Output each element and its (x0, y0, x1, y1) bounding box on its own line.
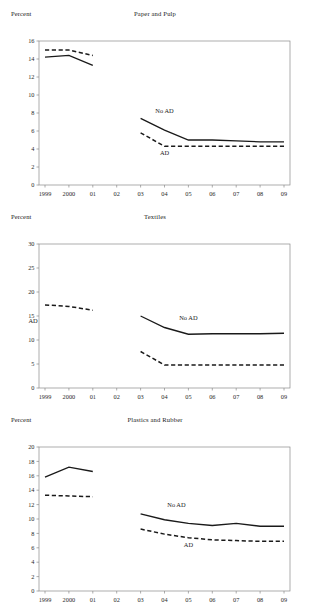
plot-frame (39, 244, 290, 388)
y-tick-label: 4 (31, 145, 35, 152)
y-tick-label: 20 (28, 443, 34, 450)
series-line-no-ad (45, 55, 93, 65)
x-tick-label: 01 (90, 596, 96, 603)
y-tick-label: 8 (31, 109, 34, 116)
y-tick-label: 14 (28, 55, 35, 62)
chart-panel-plastics-and-rubber: Percent Plastics and Rubber 024681012141… (0, 406, 310, 609)
y-tick-label: 10 (28, 91, 34, 98)
x-tick-label: 01 (90, 393, 96, 400)
series-label-no-ad: No AD (179, 314, 198, 321)
series-line-ad (45, 305, 93, 310)
x-tick-label: 07 (233, 190, 239, 197)
y-tick-label: 10 (28, 515, 34, 522)
x-tick-label: 05 (185, 393, 191, 400)
y-tick-label: 14 (28, 486, 35, 493)
x-tick-label: 1999 (39, 393, 52, 400)
x-tick-label: 06 (209, 393, 215, 400)
x-tick-label: 2000 (63, 393, 76, 400)
x-tick-label: 07 (233, 393, 239, 400)
x-tick-label: 05 (185, 596, 191, 603)
x-tick-label: 08 (257, 393, 263, 400)
line-chart-plastics-and-rubber: 0246810121416182019992000010203040506070… (0, 406, 310, 609)
x-tick-label: 09 (281, 190, 287, 197)
x-tick-label: 09 (281, 596, 287, 603)
chart-panel-textiles: Percent Textiles 05101520253019992000010… (0, 203, 310, 406)
series-line-ad (141, 529, 284, 541)
y-tick-label: 0 (31, 384, 34, 391)
series-label-ad: AD (28, 317, 38, 324)
x-tick-label: 08 (257, 596, 263, 603)
x-tick-label: 08 (257, 190, 263, 197)
chart-panel-paper-and-pulp: Percent Paper and Pulp 02468101214161999… (0, 0, 310, 203)
y-tick-label: 25 (28, 264, 34, 271)
line-chart-textiles: 05101520253019992000010203040506070809No… (0, 203, 310, 406)
y-tick-label: 12 (28, 501, 34, 508)
y-tick-label: 4 (31, 558, 35, 565)
x-tick-label: 06 (209, 596, 215, 603)
series-line-ad (45, 495, 93, 496)
x-tick-label: 03 (137, 596, 143, 603)
y-tick-label: 8 (31, 530, 34, 537)
figure-page: Percent Paper and Pulp 02468101214161999… (0, 0, 310, 609)
x-tick-label: 04 (161, 596, 168, 603)
x-tick-label: 05 (185, 190, 191, 197)
x-tick-label: 1999 (39, 190, 52, 197)
x-tick-label: 09 (281, 393, 287, 400)
y-tick-label: 16 (28, 472, 34, 479)
plot-area-plastics-and-rubber: 0246810121416182019992000010203040506070… (0, 406, 310, 609)
y-tick-label: 10 (28, 336, 34, 343)
series-line-ad (45, 50, 93, 55)
x-tick-label: 1999 (39, 596, 52, 603)
series-label-ad: AD (184, 541, 194, 548)
x-tick-label: 06 (209, 190, 215, 197)
x-tick-label: 03 (137, 190, 143, 197)
y-tick-label: 5 (31, 360, 34, 367)
x-tick-label: 01 (90, 190, 96, 197)
y-tick-label: 20 (28, 288, 34, 295)
y-tick-label: 6 (31, 127, 34, 134)
line-chart-paper-and-pulp: 024681012141619992000010203040506070809N… (0, 0, 310, 203)
y-tick-label: 30 (28, 240, 34, 247)
series-line-ad (141, 352, 284, 365)
x-tick-label: 03 (137, 393, 143, 400)
x-tick-label: 02 (114, 190, 120, 197)
series-line-no-ad (141, 118, 284, 141)
plot-area-textiles: 05101520253019992000010203040506070809No… (0, 203, 310, 406)
x-tick-label: 04 (161, 190, 168, 197)
series-line-no-ad (141, 316, 284, 334)
series-line-no-ad (141, 514, 284, 526)
y-tick-label: 0 (31, 587, 34, 594)
series-label-ad: AD (160, 149, 170, 156)
y-tick-label: 6 (31, 544, 34, 551)
x-tick-label: 07 (233, 596, 239, 603)
x-tick-label: 02 (114, 393, 120, 400)
y-tick-label: 18 (28, 458, 34, 465)
y-tick-label: 2 (31, 163, 34, 170)
y-tick-label: 16 (28, 37, 34, 44)
x-tick-label: 2000 (63, 190, 76, 197)
y-tick-label: 12 (28, 73, 34, 80)
x-tick-label: 02 (114, 596, 120, 603)
series-label-no-ad: No AD (167, 501, 186, 508)
x-tick-label: 04 (161, 393, 168, 400)
y-tick-label: 2 (31, 573, 34, 580)
plot-area-paper-and-pulp: 024681012141619992000010203040506070809N… (0, 0, 310, 203)
x-tick-label: 2000 (63, 596, 76, 603)
series-line-no-ad (45, 467, 93, 477)
series-label-no-ad: No AD (155, 107, 174, 114)
y-tick-label: 0 (31, 181, 34, 188)
